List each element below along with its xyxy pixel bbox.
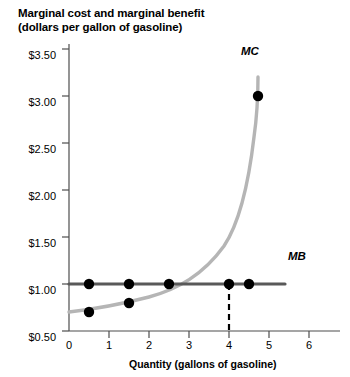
data-point-mb	[84, 279, 94, 289]
data-point-mb	[244, 279, 254, 289]
data-point-mc	[84, 307, 94, 317]
data-point-mb	[224, 279, 234, 289]
data-point-mc	[253, 91, 263, 101]
y-tick-marks	[62, 49, 69, 331]
series-line-mc	[69, 77, 258, 312]
data-point-mb	[124, 279, 134, 289]
x-tick-marks	[109, 331, 309, 338]
plot-area	[0, 0, 350, 377]
data-point-mb	[164, 279, 174, 289]
data-point-mc	[124, 298, 134, 308]
chart-figure: Marginal cost and marginal benefit(dolla…	[0, 0, 350, 377]
